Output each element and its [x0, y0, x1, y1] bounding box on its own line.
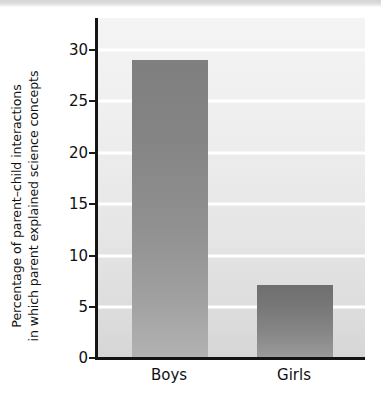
- y-tick-label: 20: [54, 144, 88, 162]
- y-tick-label: 25: [54, 92, 88, 110]
- y-axis-title-line-2: in which parent explained science concep…: [25, 26, 42, 386]
- y-axis-title-line-1: Percentage of parent–child interactions: [8, 26, 25, 386]
- y-axis-line: [95, 18, 98, 359]
- y-tick-label: 0: [54, 349, 88, 367]
- plot-area: [98, 18, 365, 357]
- y-tick-label: 30: [54, 41, 88, 59]
- x-axis-line: [95, 357, 365, 360]
- y-tick-label: 15: [54, 195, 88, 213]
- y-tick-label: 5: [54, 298, 88, 316]
- y-axis-tick-labels: 30 25 20 15 10 5 0: [52, 0, 88, 404]
- bar-girls[interactable]: [257, 285, 333, 357]
- gridline-30: [98, 49, 365, 52]
- y-axis-title: Percentage of parent–child interactions …: [8, 26, 48, 386]
- y-tick-label: 10: [54, 247, 88, 265]
- bar-boys[interactable]: [132, 60, 208, 357]
- x-tick-label-boys: Boys: [151, 366, 187, 384]
- bar-chart-figure: Percentage of parent–child interactions …: [0, 0, 381, 404]
- x-tick-label-girls: Girls: [277, 366, 311, 384]
